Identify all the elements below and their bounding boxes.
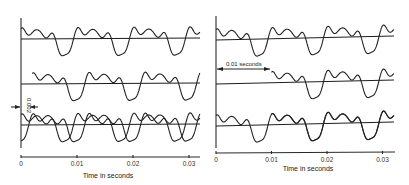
left-baseline-bottom bbox=[21, 124, 200, 125]
right-wave-superposed-original bbox=[216, 111, 394, 142]
left-shift-label: 0.002 bbox=[26, 98, 32, 114]
left-baseline-top bbox=[21, 38, 200, 39]
left-shift-annotation: 0.002 bbox=[11, 98, 38, 114]
right-x-tick-label: 0.02 bbox=[321, 156, 334, 163]
right-shift-annotation: 0.01 seconds bbox=[217, 61, 270, 71]
left-x-tick-label: 0.02 bbox=[127, 160, 140, 167]
right-wave-delayed bbox=[272, 69, 394, 99]
left-x-tick-label: 0 bbox=[19, 160, 23, 167]
right-x-axis bbox=[216, 152, 395, 153]
left-x-axis-label: Time in seconds bbox=[83, 172, 134, 179]
right-shift-arrowhead-right bbox=[264, 67, 270, 71]
right-shift-label: 0.01 seconds bbox=[226, 61, 262, 67]
panel-right: 0.01 seconds 00.010.020.03 Time in secon… bbox=[214, 16, 395, 172]
left-wave-delayed bbox=[32, 72, 200, 101]
left-shift-arrowhead-right bbox=[15, 105, 20, 109]
waveform-figure: 0.002 00.010.020.03 Time in seconds 0.01… bbox=[0, 0, 409, 185]
right-wave-superposed-delayed bbox=[272, 111, 394, 141]
left-x-tick-label: 0.01 bbox=[71, 160, 84, 167]
left-wave-superposed-original bbox=[21, 113, 200, 142]
right-x-tick-label: 0.01 bbox=[265, 156, 278, 163]
right-wave-original bbox=[216, 25, 394, 56]
right-x-axis-label: Time in seconds bbox=[283, 165, 334, 172]
right-shift-arrowhead-left bbox=[217, 67, 223, 71]
left-wave-original bbox=[21, 27, 200, 56]
right-x-tick-label: 0 bbox=[214, 156, 218, 163]
right-x-tick-label: 0.03 bbox=[376, 156, 389, 163]
left-wave-superposed-delayed bbox=[21, 113, 200, 142]
left-x-tick-label: 0.03 bbox=[183, 160, 196, 167]
left-baseline-middle bbox=[21, 83, 200, 84]
panel-left: 0.002 00.010.020.03 Time in seconds bbox=[11, 18, 200, 179]
